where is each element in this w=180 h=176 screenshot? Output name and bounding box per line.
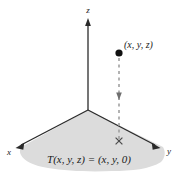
transformation-formula-label: T(x, y, z) = (x, y, 0)	[47, 153, 131, 166]
diagram-canvas: z x y (x, y, z) T(x, y, z) = (x, y, 0)	[0, 0, 180, 176]
point-xyz-dot	[115, 49, 122, 56]
x-axis-label: x	[6, 147, 11, 157]
z-axis-arrowhead	[85, 18, 91, 26]
point-xyz-label: (x, y, z)	[124, 39, 154, 51]
x-axis-arrowhead	[16, 143, 25, 150]
y-axis-label: y	[166, 146, 171, 156]
projection-direction-arrowhead	[116, 93, 122, 101]
z-axis-label: z	[85, 5, 90, 15]
projection-diagram: z x y (x, y, z) T(x, y, z) = (x, y, 0)	[0, 0, 180, 176]
